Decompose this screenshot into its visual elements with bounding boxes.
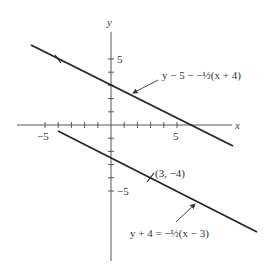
- line-2: [58, 131, 257, 232]
- line-1-equation-label: y − 5 − −½(x + 4): [162, 69, 241, 82]
- point-label-3-neg4: (3, −4): [155, 167, 185, 180]
- x-tick-label-neg5: −5: [37, 130, 49, 142]
- x-axis-label: x: [234, 119, 240, 131]
- line-1-group: y − 5 − −½(x + 4): [31, 45, 241, 146]
- line-2-equation-label: y + 4 = −½(x − 3): [130, 227, 209, 240]
- line-2-group: (3, −4) y + 4 = −½(x − 3): [58, 131, 257, 240]
- axes: x y −5 5 5: [17, 16, 240, 261]
- line-1: [31, 45, 233, 146]
- label-1-arrow: [133, 80, 158, 93]
- y-tick-label-5: 5: [117, 53, 123, 65]
- y-axis-label: y: [106, 16, 112, 28]
- x-tick-label-5: 5: [173, 130, 179, 142]
- coordinate-plane-diagram: x y −5 5 5: [0, 0, 272, 274]
- y-tick-label-neg5: −5: [117, 185, 129, 197]
- label-2-arrow: [176, 204, 195, 222]
